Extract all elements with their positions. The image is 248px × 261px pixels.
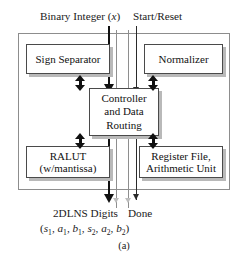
label-digit-tuple: (s1, a1, b1, s2, a2, b2) [40,222,129,237]
arrowhead-down [75,85,85,91]
block-sign-separator[interactable]: Sign Separator [26,44,110,74]
label-binary-integer: Binary Integer (x) [40,10,120,23]
arrowhead-down [148,143,158,149]
block-normalizer-label: Normalizer [156,53,210,66]
arrowhead-done-passthrough [125,198,131,203]
arrowhead-digits-passthrough [113,198,119,203]
block-controller-and-data-routing[interactable]: Controller and Data Routing [89,88,159,136]
block-controller-line2: and Data [101,105,146,119]
connector-sign-separator-controller [75,75,86,91]
connector-normalizer-controller [148,75,159,91]
arrowhead-down [148,85,158,91]
signal-line-done-out [136,136,137,200]
signal-line-start-reset-in [136,26,137,93]
block-ralut-line2: (w/mantissa) [40,162,97,175]
block-register-file-arithmetic-unit[interactable]: Register File, Arithmetic Unit [139,146,223,178]
block-register-file-line1: Register File, [146,150,216,163]
label-start-reset: Start/Reset [133,10,182,23]
arrowhead-down [75,143,85,149]
block-controller-line1: Controller [101,92,146,106]
connector-controller-ralut [75,133,86,149]
binary-integer-suffix: ) [116,10,120,22]
arrowhead-done-out [133,194,139,200]
block-ralut-line1: RALUT [40,150,97,163]
binary-integer-prefix: Binary Integer ( [40,10,111,22]
block-normalizer[interactable]: Normalizer [144,44,223,74]
label-done: Done [128,207,152,220]
arrowhead-digits-out [104,194,114,203]
figure-caption: (a) [0,240,248,251]
tuple-close-paren: ) [126,222,130,234]
block-ralut[interactable]: RALUT (w/mantissa) [26,146,110,178]
connector-controller-register-file [148,133,159,149]
block-sign-separator-label: Sign Separator [33,53,102,66]
label-2dlns-digits: 2DLNS Digits [53,207,118,220]
block-controller-line3: Routing [101,119,146,133]
system-block-diagram: Binary Integer (x) Start/Reset Sign Sepa… [0,0,248,261]
block-register-file-line2: Arithmetic Unit [146,162,216,175]
